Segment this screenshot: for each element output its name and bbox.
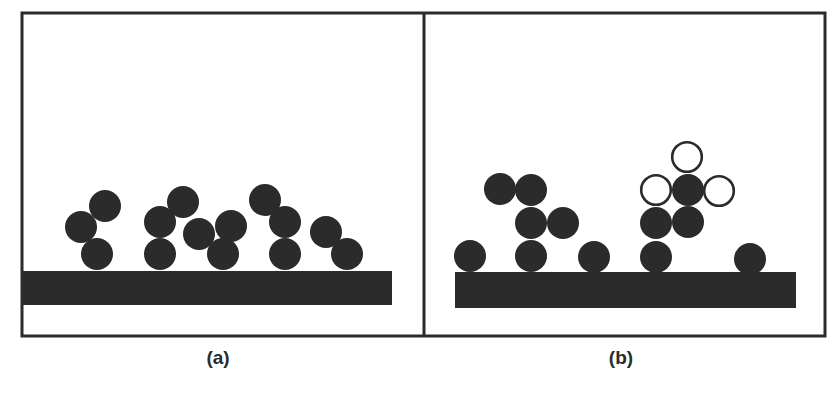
open-particle — [641, 175, 671, 205]
filled-particle — [672, 206, 704, 238]
filled-particle — [167, 186, 199, 218]
filled-particle — [640, 207, 672, 239]
panel-a — [22, 184, 392, 305]
filled-particle — [89, 190, 121, 222]
filled-particle — [640, 241, 672, 273]
filled-particle — [734, 243, 766, 275]
filled-particle — [249, 184, 281, 216]
filled-particle — [331, 238, 363, 270]
filled-particle — [484, 173, 516, 205]
filled-particle — [515, 174, 547, 206]
open-particle — [672, 142, 702, 172]
filled-particle — [65, 211, 97, 243]
filled-particle — [672, 174, 704, 206]
filled-particle — [578, 241, 610, 273]
panel-b-caption: (b) — [609, 348, 633, 367]
substrate-slab — [455, 272, 796, 308]
filled-particle — [207, 238, 239, 270]
filled-particle — [269, 238, 301, 270]
filled-particle — [215, 210, 247, 242]
panel-b — [454, 142, 796, 308]
filled-particle — [81, 238, 113, 270]
filled-particle — [547, 207, 579, 239]
particle-deposition-figure — [0, 0, 838, 398]
open-particle — [704, 176, 734, 206]
filled-particle — [515, 240, 547, 272]
substrate-slab — [22, 271, 392, 305]
filled-particle — [515, 207, 547, 239]
filled-particle — [454, 240, 486, 272]
panel-a-caption: (a) — [206, 348, 229, 367]
filled-particle — [144, 238, 176, 270]
